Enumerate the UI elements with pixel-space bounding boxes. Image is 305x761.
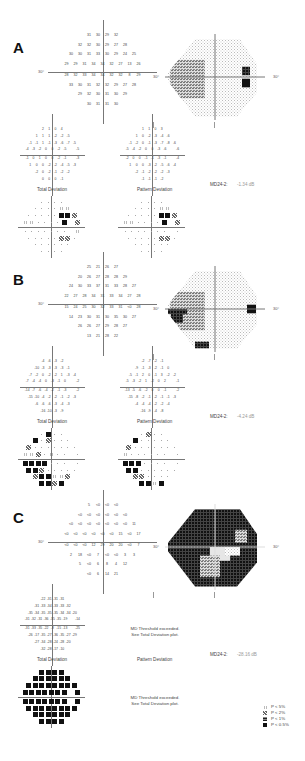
probability-symbol-p05 [162,220,167,225]
probability-symbol-dot [125,231,126,232]
probability-symbol-p05 [65,213,70,218]
probability-symbol-p2 [133,474,138,479]
probability-symbol-dot [28,215,29,216]
grid-value: 29 [134,73,143,78]
legend-symbol-p5 [263,705,267,709]
probability-symbol-p5 [65,206,70,211]
probability-symbol-dot [54,447,55,448]
panel-label-c: C [13,509,24,526]
probability-symbol-dot [167,244,168,245]
grid-value: 27 [71,294,80,299]
grid-value: <0 [94,503,103,508]
grid-value: 8 [103,562,112,567]
probability-symbol-dot [61,251,62,252]
probability-symbol-p05 [42,690,47,695]
probability-symbol-dot [41,434,42,435]
probability-symbol-p5 [75,229,80,234]
probability-symbol-p05 [59,213,64,218]
probability-symbol-p05 [59,719,64,724]
grid-value: -5 [71,141,77,146]
grid-value: 32 [71,73,80,78]
grid-value: 27 [130,315,139,320]
grid-value: 15 [62,305,71,310]
probability-symbol-dot [61,440,62,441]
probability-symbol-p2 [33,474,38,479]
grid-value: 31 [94,102,103,107]
grid-value: 31 [103,92,112,97]
grid-value: 33 [94,52,103,57]
grid-value: 25 [80,305,89,310]
defect-region [195,342,209,349]
probability-symbol-dot [61,434,62,435]
grid-value: 21 [94,265,103,270]
divider-tick [214,354,215,360]
probability-symbol-dot [141,434,142,435]
probability-symbol-dot [64,231,65,232]
probability-symbol-p2 [26,445,31,450]
total-prob-plot [22,200,81,254]
axis-label-left: 30° [38,301,44,306]
probability-symbol-dot [135,244,136,245]
legend-symbol-p1 [263,717,267,721]
grid-value: -5 [65,134,71,139]
probability-symbol-dot [74,470,75,471]
probability-symbol-p05 [39,474,44,479]
probability-symbol-dot [67,244,68,245]
probability-symbol-dot [31,231,32,232]
axis-label-left: 30° [153,544,159,549]
probability-symbol-dot [48,447,49,448]
probability-symbol-dot [154,208,155,209]
grid-value: 27 [94,324,103,329]
probability-symbol-p05 [46,706,51,711]
probability-symbol-dot [141,244,142,245]
threshold-grid: 3130293232323029272830303133302924252929… [62,34,143,110]
probability-symbol-p05 [49,690,54,695]
md-label: MD24-2: [210,182,228,187]
grid-value: 27 [112,265,121,270]
probability-symbol-dot [151,463,152,464]
grid-value: 33 [107,305,116,310]
probability-symbol-p05 [29,690,34,695]
probability-symbol-dot [44,231,45,232]
probability-symbol-p05 [46,676,51,681]
probability-symbol-p05 [52,719,57,724]
partial-region [235,530,247,543]
probability-symbol-p05 [139,481,144,486]
probability-symbol-dot [51,222,52,223]
divider-tick [214,592,215,598]
grid-value: 12 [89,543,98,548]
threshold-grid: 5<0<0<0<0<0<0<0<0<0<0<0<0<0<0<0<011<0<0<… [62,504,143,580]
grid-value: 28 [103,334,112,339]
grid-value: 3 [121,553,130,558]
total-deviation-grid: -4-6-3-2-10-3-3-3-3-1-7-20-2-21-3-4-7-4-… [24,360,81,414]
grid-value: <0 [85,572,94,577]
grid-value: 0 [165,366,171,371]
grayscale-plot [165,34,265,120]
probability-symbol-dot [154,244,155,245]
grid-value: 22 [62,294,71,299]
probability-symbol-dot [167,470,168,471]
total-deviation-grid: 2104111-2-2-5-1-11-1-3-6-7-5-4-3-200-2-5… [24,128,81,182]
grid-value: 31 [103,102,112,107]
probability-symbol-dot [67,440,68,441]
probability-symbol-dot [148,208,149,209]
probability-symbol-dot [154,440,155,441]
grid-value: 5 [85,503,94,508]
grid-value: 33 [107,294,116,299]
probability-symbol-dot [41,440,42,441]
grid-value: -6 [162,147,168,152]
probability-symbol-dot [167,476,168,477]
probability-symbol-p05 [29,461,34,466]
grid-value: 25 [85,265,94,270]
pattern-deviation-grid: -2-7-2-1-9-1-3-2-10-5-120-13-2-2-5-3-21-… [124,360,181,414]
grid-value: <0 [107,532,116,537]
probability-symbol-dot [151,454,152,455]
probability-symbol-dot [164,231,165,232]
grid-value: <0 [71,543,80,548]
grid-value: <0 [80,532,89,537]
grid-value: 23 [76,315,85,320]
grid-value: -1 [159,359,165,364]
grid-value: 33 [67,83,76,88]
grid-value: 27 [112,43,121,48]
grid-value: 25 [130,52,139,57]
